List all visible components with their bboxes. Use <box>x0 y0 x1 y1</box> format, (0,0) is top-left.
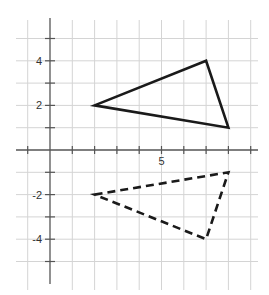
x-tick-label: 5 <box>158 155 164 167</box>
y-tick-label: 4 <box>36 55 42 67</box>
y-tick-label: -2 <box>32 189 42 201</box>
y-tick-label: 2 <box>36 99 42 111</box>
axes <box>16 18 258 284</box>
y-tick-label: -4 <box>32 233 42 245</box>
coordinate-plane: 542-2-4 <box>0 0 269 295</box>
